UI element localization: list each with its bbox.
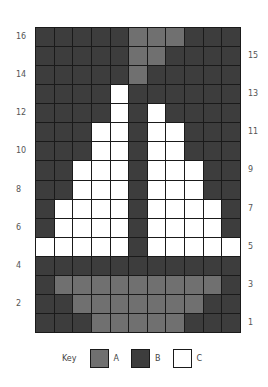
chart-cell: [111, 161, 129, 179]
chart-cell: [185, 66, 203, 84]
chart-cell: [92, 276, 110, 294]
chart-cell: [148, 314, 166, 332]
chart-cell: [55, 47, 73, 65]
chart-cell: [204, 257, 222, 275]
chart-cell: [148, 238, 166, 256]
chart-grid: [35, 27, 241, 333]
chart-cell: [166, 295, 184, 313]
chart-cell: [129, 219, 147, 237]
chart-cell: [73, 161, 91, 179]
chart-cell: [92, 123, 110, 141]
chart-cell: [185, 123, 203, 141]
chart-cell: [185, 85, 203, 103]
chart-cell: [73, 276, 91, 294]
chart-cell: [129, 85, 147, 103]
chart-cell: [111, 219, 129, 237]
chart-cell: [185, 257, 203, 275]
chart-cell: [73, 181, 91, 199]
row-number-label: 16: [16, 32, 26, 42]
chart-cell: [36, 238, 54, 256]
chart-cell: [111, 104, 129, 122]
chart-cell: [148, 104, 166, 122]
key-title: Key: [62, 354, 77, 363]
row-number-label: 10: [16, 146, 26, 156]
row-number-label: 8: [16, 185, 21, 195]
chart-cell: [222, 66, 240, 84]
chart-cell: [92, 314, 110, 332]
chart-cell: [129, 47, 147, 65]
chart-cell: [204, 123, 222, 141]
chart-cell: [36, 161, 54, 179]
chart-cell: [185, 295, 203, 313]
chart-cell: [185, 314, 203, 332]
chart-cell: [129, 104, 147, 122]
key-legend: Key A B C: [62, 347, 214, 369]
chart-cell: [129, 142, 147, 160]
chart-cell: [166, 85, 184, 103]
row-number-label: 3: [248, 280, 253, 290]
chart-cell: [185, 161, 203, 179]
chart-cell: [148, 200, 166, 218]
chart-cell: [222, 28, 240, 46]
chart-cell: [55, 28, 73, 46]
chart-cell: [92, 238, 110, 256]
chart-cell: [204, 47, 222, 65]
colorwork-chart: 16151413121110987654321 Key A B C: [0, 0, 268, 387]
chart-cell: [55, 142, 73, 160]
chart-cell: [185, 47, 203, 65]
chart-cell: [129, 181, 147, 199]
chart-cell: [166, 47, 184, 65]
chart-cell: [204, 276, 222, 294]
chart-cell: [148, 142, 166, 160]
chart-cell: [204, 295, 222, 313]
chart-cell: [204, 142, 222, 160]
chart-cell: [55, 104, 73, 122]
chart-cell: [129, 161, 147, 179]
chart-cell: [204, 85, 222, 103]
swatch-b: [131, 349, 150, 368]
chart-cell: [166, 161, 184, 179]
chart-cell: [111, 295, 129, 313]
chart-cell: [222, 161, 240, 179]
chart-cell: [185, 142, 203, 160]
chart-cell: [166, 314, 184, 332]
chart-cell: [166, 219, 184, 237]
chart-cell: [55, 85, 73, 103]
chart-cell: [166, 257, 184, 275]
key-item-b: B: [131, 349, 161, 368]
chart-cell: [36, 257, 54, 275]
chart-cell: [92, 85, 110, 103]
chart-cell: [185, 181, 203, 199]
row-number-label: 4: [16, 261, 21, 271]
chart-cell: [111, 200, 129, 218]
chart-cell: [204, 28, 222, 46]
chart-cell: [222, 181, 240, 199]
chart-cell: [204, 200, 222, 218]
chart-cell: [148, 66, 166, 84]
chart-cell: [129, 238, 147, 256]
row-number-label: 13: [248, 89, 258, 99]
chart-cell: [36, 28, 54, 46]
chart-cell: [166, 104, 184, 122]
chart-cell: [73, 238, 91, 256]
chart-cell: [36, 142, 54, 160]
chart-cell: [55, 295, 73, 313]
row-number-label: 1: [248, 318, 253, 328]
chart-cell: [73, 47, 91, 65]
chart-cell: [166, 276, 184, 294]
swatch-a: [90, 349, 109, 368]
chart-cell: [36, 314, 54, 332]
chart-cell: [111, 123, 129, 141]
chart-cell: [111, 142, 129, 160]
row-number-label: 9: [248, 165, 253, 175]
chart-cell: [55, 200, 73, 218]
chart-cell: [73, 85, 91, 103]
chart-cell: [36, 47, 54, 65]
key-item-c: C: [173, 349, 203, 368]
chart-cell: [73, 66, 91, 84]
chart-cell: [222, 219, 240, 237]
chart-cell: [55, 276, 73, 294]
chart-cell: [185, 200, 203, 218]
chart-cell: [204, 181, 222, 199]
chart-cell: [111, 238, 129, 256]
